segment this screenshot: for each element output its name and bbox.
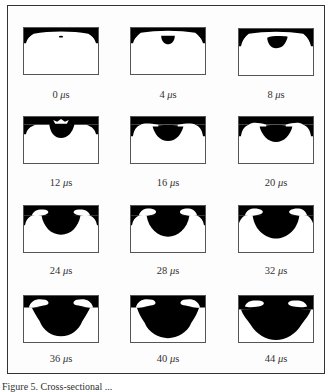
frame-image-12us [23, 116, 99, 164]
frame-image-24us [23, 205, 99, 253]
time-label-16us: 16 μs [130, 177, 206, 188]
frame-image-28us [130, 205, 206, 253]
time-label-28us: 28 μs [130, 265, 206, 276]
time-label-8us: 8 μs [238, 89, 314, 100]
frame-image-40us [130, 295, 206, 343]
time-label-20us: 20 μs [238, 177, 314, 188]
time-label-44us: 44 μs [238, 353, 314, 364]
time-label-40us: 40 μs [130, 353, 206, 364]
frame-image-16us [130, 116, 206, 164]
time-label-32us: 32 μs [238, 265, 314, 276]
frame-image-36us [23, 295, 99, 343]
frame-image-32us [238, 205, 314, 253]
time-label-36us: 36 μs [23, 353, 99, 364]
frame-image-44us [238, 295, 314, 343]
time-label-4us: 4 μs [130, 89, 206, 100]
frame-image-0us [23, 27, 99, 75]
frame-image-20us [238, 116, 314, 164]
frame-image-8us [238, 28, 314, 76]
time-label-24us: 24 μs [23, 265, 99, 276]
time-label-0us: 0 μs [23, 89, 99, 100]
frame-image-4us [130, 27, 206, 75]
time-label-12us: 12 μs [23, 177, 99, 188]
figure-caption: Figure 5. Cross-sectional ... [2, 381, 112, 392]
